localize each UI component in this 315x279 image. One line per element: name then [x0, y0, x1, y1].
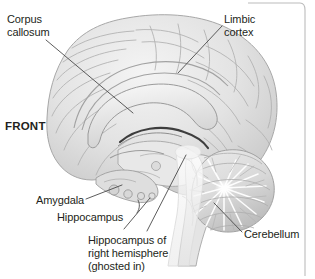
ghosted-hippocampus-head [175, 145, 201, 159]
label-limbic-cortex-line2: cortex [224, 26, 253, 39]
massa-intermedia [152, 162, 161, 171]
label-cerebellum: Cerebellum [244, 228, 299, 241]
brain-anatomy-figure: Corpus callosum Limbic cortex FRONT Amyg… [0, 0, 315, 279]
label-corpus-callosum-line1: Corpus [7, 13, 42, 26]
label-amygdala: Amygdala [36, 194, 84, 207]
leader-ghosted-a [124, 198, 150, 229]
label-ghosted-line3: (ghosted in) [88, 260, 145, 273]
label-corpus-callosum-line2: callosum [7, 26, 50, 39]
label-ghosted-line2: right hemisphere [88, 247, 168, 260]
label-front-orientation: FRONT [5, 120, 46, 133]
label-hippocampus: Hippocampus [57, 211, 123, 224]
label-ghosted-line1: Hippocampus of [88, 234, 166, 247]
label-limbic-cortex-line1: Limbic [224, 13, 255, 26]
hippocampal-head [124, 190, 132, 198]
